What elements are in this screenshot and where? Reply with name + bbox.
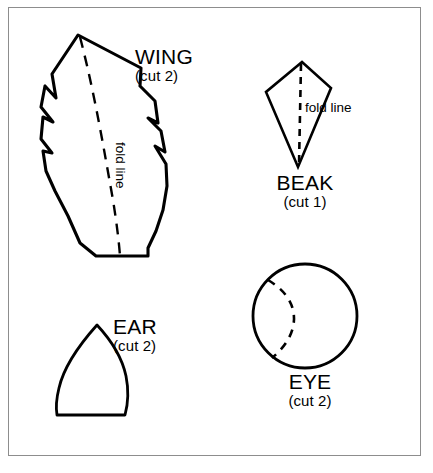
ear-label-name: EAR bbox=[113, 316, 157, 338]
wing-fold-line-label: fold line bbox=[113, 142, 128, 189]
eye-label: EYE (cut 2) bbox=[288, 371, 331, 409]
wing-label-name: WING bbox=[135, 46, 193, 68]
pattern-sheet: WING (cut 2) BEAK (cut 1) EAR (cut 2) EY… bbox=[0, 0, 433, 473]
beak-fold-line-label: fold line bbox=[305, 100, 352, 115]
sheet-border-frame bbox=[8, 7, 421, 456]
ear-label: EAR (cut 2) bbox=[113, 316, 157, 354]
eye-label-name: EYE bbox=[288, 371, 331, 393]
beak-label: BEAK (cut 1) bbox=[277, 172, 334, 210]
wing-label-count: (cut 2) bbox=[135, 68, 193, 84]
wing-label: WING (cut 2) bbox=[135, 46, 193, 84]
beak-label-name: BEAK bbox=[277, 172, 334, 194]
ear-label-count: (cut 2) bbox=[113, 338, 157, 354]
beak-label-count: (cut 1) bbox=[277, 194, 334, 210]
eye-label-count: (cut 2) bbox=[288, 393, 331, 409]
